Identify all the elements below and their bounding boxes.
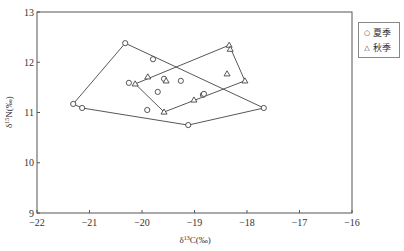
- x-tick-label: −22: [29, 217, 45, 228]
- circle-point: [71, 101, 76, 106]
- x-tick-label: −16: [344, 217, 360, 228]
- circle-marker-icon: ○: [363, 29, 371, 37]
- x-axis-title: δ13C(‰): [179, 235, 210, 245]
- circle-point: [178, 78, 183, 83]
- triangle-point: [242, 78, 248, 83]
- circle-point: [201, 91, 206, 96]
- x-tick-label: −21: [82, 217, 98, 228]
- x-tick-label: −19: [187, 217, 203, 228]
- legend-label-summer: 夏季: [373, 26, 391, 39]
- legend: ○ 夏季 △ 秋季: [358, 22, 400, 58]
- legend-item-autumn: △ 秋季: [359, 40, 399, 55]
- triangle-marker-icon: △: [363, 44, 371, 52]
- triangle-point: [145, 74, 151, 79]
- axis-ticks: −22−21−20−19−18−17−16910111213: [24, 7, 360, 229]
- plot-frame: [37, 12, 352, 213]
- legend-item-summer: ○ 夏季: [359, 25, 399, 40]
- circle-point: [126, 80, 131, 85]
- y-tick-label: 10: [24, 157, 34, 168]
- scatter-chart: −22−21−20−19−18−17−16910111213 δ13C(‰) δ…: [0, 0, 404, 251]
- convex-hulls: [73, 43, 264, 125]
- circle-point: [186, 122, 191, 127]
- circle-point: [80, 105, 85, 110]
- circle-point: [150, 57, 155, 62]
- legend-label-autumn: 秋季: [373, 41, 391, 54]
- y-axis-title: δ15N(‰): [4, 96, 14, 128]
- triangle-point: [226, 42, 232, 47]
- x-tick-label: −20: [134, 217, 150, 228]
- circle-point: [155, 89, 160, 94]
- y-tick-label: 9: [29, 208, 34, 219]
- circle-point: [261, 105, 266, 110]
- x-tick-label: −17: [292, 217, 308, 228]
- circle-point: [145, 107, 150, 112]
- y-tick-label: 12: [24, 57, 34, 68]
- circle-point: [123, 41, 128, 46]
- x-tick-label: −18: [239, 217, 255, 228]
- y-tick-label: 11: [24, 107, 34, 118]
- y-tick-label: 13: [24, 7, 34, 18]
- triangle-point: [224, 71, 230, 76]
